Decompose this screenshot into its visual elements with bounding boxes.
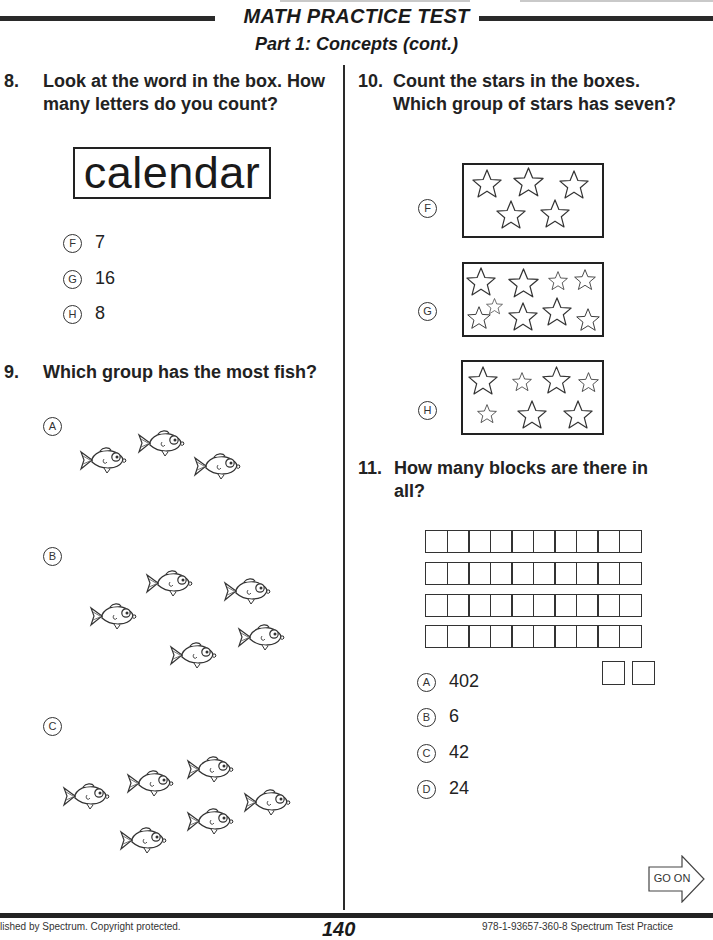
fish-icon bbox=[125, 765, 177, 799]
star-icon bbox=[508, 302, 538, 332]
star-icon bbox=[477, 404, 497, 424]
boxed-word: calendar bbox=[73, 147, 271, 199]
fish-icon bbox=[144, 565, 196, 599]
answer-value: 8 bbox=[95, 303, 105, 324]
answer-value: 42 bbox=[449, 742, 469, 763]
fish-icon bbox=[136, 425, 188, 459]
answer-bubble[interactable]: C bbox=[43, 717, 62, 736]
fish-icon bbox=[242, 784, 294, 818]
answer-bubble[interactable]: D bbox=[417, 780, 436, 799]
star-icon bbox=[517, 400, 547, 430]
answer-bubble[interactable]: A bbox=[417, 673, 436, 692]
star-icon bbox=[508, 268, 539, 299]
page-number: 140 bbox=[322, 918, 355, 940]
answer-bubble[interactable]: H bbox=[418, 401, 437, 420]
star-icon bbox=[513, 167, 544, 198]
star-icon bbox=[578, 372, 599, 393]
star-icon bbox=[576, 308, 600, 332]
star-icon bbox=[496, 200, 526, 230]
answer-bubble[interactable]: B bbox=[43, 547, 62, 566]
question-11: 11. How many blocks are there in all? bbox=[358, 457, 713, 507]
question-text-line1: How many blocks are there in bbox=[394, 457, 648, 480]
fish-icon bbox=[78, 442, 130, 476]
question-8: 8. Look at the word in the box. How many… bbox=[4, 70, 339, 120]
fish-icon bbox=[185, 803, 237, 837]
ten-block-row bbox=[425, 530, 640, 554]
star-icon bbox=[472, 169, 502, 199]
star-box-g bbox=[462, 262, 604, 337]
question-9: 9. Which group has the most fish? bbox=[4, 361, 339, 386]
top-edge-line-left bbox=[280, 0, 470, 2]
question-text-line2: many letters do you count? bbox=[43, 93, 278, 116]
answer-value: 6 bbox=[449, 706, 459, 727]
page-subtitle: Part 1: Concepts (cont.) bbox=[0, 34, 713, 55]
footer-copyright: lished by Spectrum. Copyright protected. bbox=[0, 921, 181, 932]
question-text-line2: all? bbox=[394, 480, 425, 503]
star-icon bbox=[559, 170, 589, 200]
star-icon bbox=[467, 306, 491, 330]
answer-value: 24 bbox=[449, 778, 469, 799]
column-divider bbox=[343, 65, 345, 910]
answer-bubble[interactable]: F bbox=[63, 234, 82, 253]
answer-bubble[interactable]: G bbox=[63, 270, 82, 289]
page-title: MATH PRACTICE TEST bbox=[0, 5, 713, 28]
fish-icon bbox=[118, 822, 170, 856]
answer-bubble[interactable]: G bbox=[418, 302, 437, 321]
ten-block-row bbox=[425, 594, 640, 618]
star-icon bbox=[512, 372, 532, 392]
ten-block-row bbox=[425, 562, 640, 586]
answer-value: 7 bbox=[95, 232, 105, 253]
star-icon bbox=[540, 199, 570, 229]
fish-icon bbox=[222, 573, 274, 607]
answer-value: 16 bbox=[95, 268, 115, 289]
answer-bubble[interactable]: H bbox=[63, 305, 82, 324]
fish-icon bbox=[236, 619, 288, 653]
question-number: 8. bbox=[4, 70, 19, 93]
answer-bubble[interactable]: C bbox=[417, 744, 436, 763]
footer-isbn: 978-1-93657-360-8 Spectrum Test Practice bbox=[482, 921, 673, 932]
question-number: 11. bbox=[358, 457, 382, 480]
single-block bbox=[602, 661, 625, 685]
answer-bubble[interactable]: A bbox=[43, 417, 62, 436]
star-icon bbox=[466, 267, 496, 297]
top-edge-line-right bbox=[520, 0, 713, 2]
answer-value: 402 bbox=[449, 671, 479, 692]
ten-block-row bbox=[425, 625, 640, 649]
single-block bbox=[632, 661, 655, 685]
question-text-line1: Count the stars in the boxes. bbox=[393, 70, 640, 93]
star-icon bbox=[542, 366, 571, 395]
question-text-line2: Which group of stars has seven? bbox=[393, 93, 676, 116]
star-box-h bbox=[461, 360, 604, 435]
question-number: 9. bbox=[4, 361, 19, 384]
star-icon bbox=[563, 400, 593, 430]
question-10: 10. Count the stars in the boxes. Which … bbox=[358, 70, 713, 120]
star-icon bbox=[574, 269, 596, 291]
fish-icon bbox=[192, 448, 244, 482]
star-icon bbox=[468, 366, 498, 396]
fish-icon bbox=[185, 751, 237, 785]
question-text-line1: Look at the word in the box. How bbox=[43, 70, 325, 93]
question-number: 10. bbox=[358, 70, 383, 93]
question-text: Which group has the most fish? bbox=[43, 361, 317, 384]
fish-icon bbox=[88, 598, 140, 632]
star-icon bbox=[542, 297, 572, 327]
go-on-label: GO ON bbox=[652, 872, 692, 884]
answer-bubble[interactable]: F bbox=[418, 199, 437, 218]
footer-rule bbox=[0, 913, 713, 918]
fish-icon bbox=[168, 637, 220, 671]
star-box-f bbox=[462, 163, 604, 238]
fish-icon bbox=[61, 778, 113, 812]
answer-bubble[interactable]: B bbox=[417, 708, 436, 727]
star-icon bbox=[548, 271, 568, 291]
